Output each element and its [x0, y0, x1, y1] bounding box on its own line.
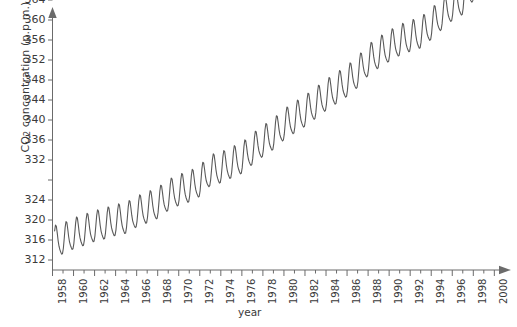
y-tick-label: 352 [12, 53, 46, 66]
x-axis-title: year [238, 306, 261, 318]
y-tick-label: 316 [12, 233, 46, 246]
x-tick-label: 1974 [225, 279, 236, 304]
x-tick-label: 1968 [162, 279, 173, 304]
y-axis-ticks [48, 0, 53, 260]
x-tick-label: 1960 [78, 279, 89, 304]
chart-container: CO2 concentration (p.p.m.) year 31231632… [0, 0, 517, 327]
y-tick-label: 348 [12, 73, 46, 86]
x-tick-label: 1996 [456, 279, 467, 304]
y-tick-label: 344 [12, 93, 46, 106]
x-tick-label: 1994 [435, 279, 446, 304]
x-tick-label: 1986 [351, 279, 362, 304]
x-tick-label: 1984 [330, 279, 341, 304]
x-tick-label: 1972 [204, 279, 215, 304]
x-tick-label: 1978 [267, 279, 278, 304]
x-tick-label: 1980 [288, 279, 299, 304]
x-tick-label: 1962 [99, 279, 110, 304]
x-tick-label: 1970 [183, 279, 194, 304]
x-tick-label: 1990 [393, 279, 404, 304]
x-tick-label: 1976 [246, 279, 257, 304]
y-tick-label: 312 [12, 253, 46, 266]
x-tick-label: 2000 [498, 279, 509, 304]
y-tick-label: 364 [12, 0, 46, 6]
co2-data-line [55, 0, 478, 254]
y-tick-label: 324 [12, 193, 46, 206]
x-tick-label: 1992 [414, 279, 425, 304]
x-tick-label: 1988 [372, 279, 383, 304]
y-tick-label: 340 [12, 113, 46, 126]
x-tick-label: 1964 [120, 279, 131, 304]
axes [48, 7, 511, 274]
x-tick-label: 1966 [141, 279, 152, 304]
x-tick-label: 1982 [309, 279, 320, 304]
x-tick-label: 1958 [57, 279, 68, 304]
y-tick-label: 320 [12, 213, 46, 226]
y-tick-label: 336 [12, 133, 46, 146]
y-tick-label: 360 [12, 13, 46, 26]
x-axis-ticks [53, 270, 495, 276]
y-tick-label: 332 [12, 153, 46, 166]
y-tick-label: 356 [12, 33, 46, 46]
x-tick-label: 1998 [477, 279, 488, 304]
